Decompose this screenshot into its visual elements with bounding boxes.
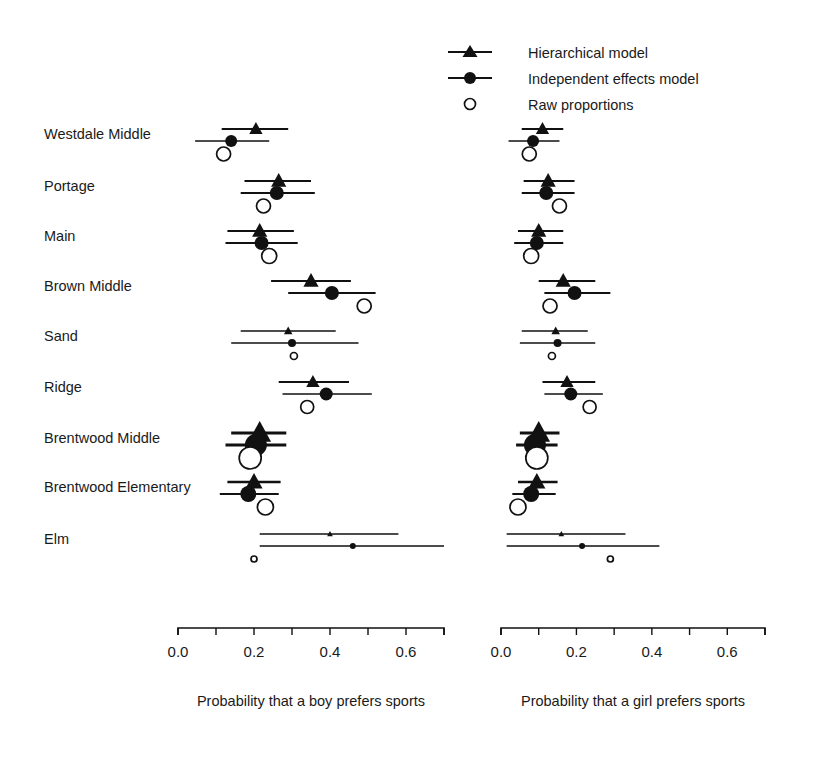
independent-marker xyxy=(523,486,539,502)
x-axis: 0.00.20.40.6 xyxy=(491,628,765,660)
axis-line xyxy=(501,628,765,635)
raw-proportion-marker xyxy=(239,447,261,469)
axis-tick-label: 0.0 xyxy=(168,643,189,660)
independent-marker xyxy=(539,186,553,200)
hierarchical-marker xyxy=(541,173,556,187)
axis-line xyxy=(178,628,444,635)
forest-plot-figure: Hierarchical modelIndependent effects mo… xyxy=(0,0,818,763)
independent-marker xyxy=(350,543,356,549)
raw-proportion-marker xyxy=(583,401,596,414)
legend: Hierarchical modelIndependent effects mo… xyxy=(448,45,699,113)
hierarchical-marker xyxy=(249,122,262,134)
raw-proportion-marker xyxy=(217,147,231,161)
raw-proportion-marker xyxy=(257,499,273,515)
independent-marker xyxy=(225,135,237,147)
estimate-row xyxy=(507,531,660,562)
school-label: Westdale Middle xyxy=(44,126,151,142)
estimate-row xyxy=(226,223,298,264)
raw-proportion-marker xyxy=(290,353,297,360)
axis-title: Probability that a boy prefers sports xyxy=(197,693,425,709)
axis-tick-label: 0.6 xyxy=(717,643,738,660)
independent-marker xyxy=(554,339,562,347)
legend-label: Independent effects model xyxy=(528,71,699,87)
school-label: Brentwood Elementary xyxy=(44,479,191,495)
axis-tick-label: 0.2 xyxy=(566,643,587,660)
raw-proportion-marker xyxy=(526,447,548,469)
raw-proportion-marker xyxy=(257,199,271,213)
raw-proportion-marker xyxy=(251,556,257,562)
x-axis: 0.00.20.40.6 xyxy=(168,628,444,660)
hierarchical-marker xyxy=(303,273,318,287)
estimate-row xyxy=(271,273,376,313)
axis-tick-label: 0.0 xyxy=(491,643,512,660)
school-label: Sand xyxy=(44,328,78,344)
estimate-row xyxy=(509,122,564,161)
raw-proportion-marker xyxy=(552,199,566,213)
axis-tick-label: 0.4 xyxy=(641,643,662,660)
raw-proportion-marker xyxy=(522,147,536,161)
raw-proportion-marker xyxy=(548,353,555,360)
estimate-row xyxy=(514,223,563,264)
independent-marker xyxy=(320,388,333,401)
hierarchical-marker xyxy=(560,375,573,387)
raw-proportion-marker xyxy=(262,249,277,264)
hierarchical-marker xyxy=(531,223,546,237)
axis-title: Probability that a girl prefers sports xyxy=(521,693,745,709)
axis-tick-label: 0.2 xyxy=(244,643,265,660)
school-label: Brown Middle xyxy=(44,278,132,294)
school-label: Brentwood Middle xyxy=(44,430,160,446)
independent-marker xyxy=(288,339,296,347)
independent-marker xyxy=(240,486,256,502)
independent-marker xyxy=(325,286,339,300)
estimate-row xyxy=(520,327,595,360)
raw-proportion-marker xyxy=(524,249,539,264)
raw-proportion-marker xyxy=(543,299,557,313)
legend-item: Raw proportions xyxy=(465,97,634,113)
axis-tick-label: 0.4 xyxy=(320,643,341,660)
legend-label: Raw proportions xyxy=(528,97,634,113)
school-label: Elm xyxy=(44,531,69,547)
raw-proportion-marker xyxy=(607,556,613,562)
independent-marker xyxy=(568,286,582,300)
estimate-row xyxy=(539,273,611,313)
independent-marker xyxy=(255,236,269,250)
estimate-row xyxy=(516,421,559,469)
raw-proportion-marker xyxy=(357,299,371,313)
estimate-row xyxy=(522,173,575,213)
estimate-row xyxy=(195,122,288,161)
estimate-row xyxy=(279,375,372,414)
raw-proportion-marker xyxy=(510,499,526,515)
hierarchical-marker xyxy=(556,273,571,287)
independent-marker xyxy=(270,186,284,200)
estimate-row xyxy=(510,473,558,515)
estimate-row xyxy=(542,375,602,414)
axis-tick-label: 0.6 xyxy=(396,643,417,660)
legend-open-circle-icon xyxy=(465,99,476,110)
school-label: Ridge xyxy=(44,379,82,395)
school-label: Portage xyxy=(44,178,95,194)
hierarchical-marker xyxy=(271,173,286,187)
independent-marker xyxy=(527,135,539,147)
raw-proportion-marker xyxy=(301,401,314,414)
legend-label: Hierarchical model xyxy=(528,45,648,61)
hierarchical-marker xyxy=(536,122,549,134)
estimate-row xyxy=(231,327,358,360)
estimate-row xyxy=(220,473,281,515)
estimate-row xyxy=(241,173,315,213)
estimate-row xyxy=(226,421,287,469)
independent-marker xyxy=(564,388,577,401)
legend-item: Hierarchical model xyxy=(448,45,648,61)
panel-girls: 0.00.20.40.6Probability that a girl pref… xyxy=(491,122,765,709)
legend-filled-circle-icon xyxy=(464,72,476,84)
panel-boys: 0.00.20.40.6Probability that a boy prefe… xyxy=(168,122,444,709)
independent-marker xyxy=(579,543,585,549)
school-label: Main xyxy=(44,228,75,244)
legend-item: Independent effects model xyxy=(448,71,699,87)
school-label-column: Westdale MiddlePortageMainBrown MiddleSa… xyxy=(44,126,191,547)
estimate-row xyxy=(251,531,444,562)
hierarchical-marker xyxy=(252,223,267,237)
hierarchical-marker xyxy=(306,375,319,387)
